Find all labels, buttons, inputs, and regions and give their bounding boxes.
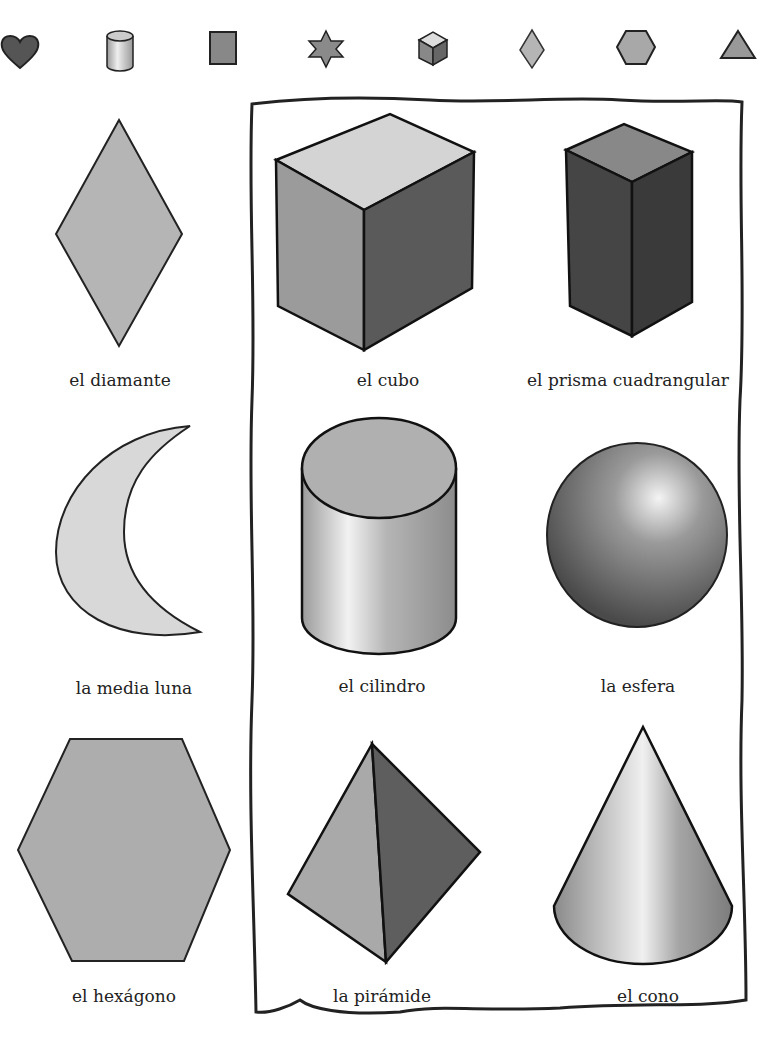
hexagon-label: el hexágono (4, 986, 244, 1006)
diamond-icon (517, 28, 547, 72)
pyramid-label: la pirámide (262, 986, 502, 1006)
square-prism-label: el prisma cuadrangular (508, 370, 748, 390)
cone-label: el cono (528, 986, 768, 1006)
cube-shape (272, 112, 478, 354)
heart-icon (0, 28, 40, 73)
rectangle-icon (208, 28, 238, 68)
diamond-label: el diamante (0, 370, 240, 390)
cube-icon (415, 28, 451, 70)
shape-icon-row (0, 0, 781, 100)
pyramid-shape (284, 740, 484, 966)
crescent-shape (50, 422, 210, 646)
cylinder-icon (104, 28, 136, 73)
star-icon (306, 28, 346, 70)
crescent-label: la media luna (14, 678, 254, 698)
cylinder-shape (298, 414, 460, 658)
sphere-shape (544, 440, 730, 630)
cube-label: el cubo (268, 370, 508, 390)
diamond-shape (52, 118, 186, 350)
hexagon-shape (14, 736, 234, 964)
square-prism-shape (562, 122, 696, 340)
cylinder-label: el cilindro (262, 676, 502, 696)
sphere-label: la esfera (518, 676, 758, 696)
triangle-icon (718, 28, 758, 62)
cone-shape (550, 724, 736, 970)
hexagon-icon (614, 28, 658, 68)
